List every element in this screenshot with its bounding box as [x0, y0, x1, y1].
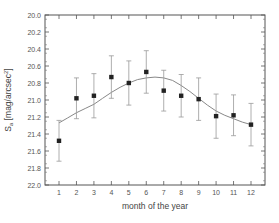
- x-tick-label: 6: [144, 189, 148, 196]
- y-tick-label: 20.4: [27, 46, 41, 53]
- chart: 20.020.220.420.620.821.021.221.421.621.8…: [0, 0, 279, 223]
- data-point: [214, 114, 218, 118]
- y-tick-label: 20.0: [27, 12, 41, 19]
- y-tick-label: 21.4: [27, 131, 41, 138]
- y-tick-label: 21.0: [27, 97, 41, 104]
- data-points: [57, 70, 253, 143]
- x-tick-label: 8: [179, 189, 183, 196]
- data-point: [162, 88, 166, 92]
- y-tick-label: 20.6: [27, 63, 41, 70]
- x-tick-label: 1: [57, 189, 61, 196]
- x-tick-label: 4: [109, 189, 113, 196]
- x-tick-label: 9: [197, 189, 201, 196]
- x-tick-label: 2: [75, 189, 79, 196]
- y-tick-label: 21.8: [27, 165, 41, 172]
- x-tick-label: 12: [247, 189, 255, 196]
- x-axis: 123456789101112: [57, 15, 255, 196]
- error-bars: [57, 51, 254, 162]
- data-point: [92, 94, 96, 98]
- x-tick-label: 7: [162, 189, 166, 196]
- x-axis-title: month of the year: [122, 201, 188, 211]
- y-axis-title: Sa [mag/arcsec2]: [3, 68, 14, 131]
- y-tick-label: 20.8: [27, 80, 41, 87]
- data-point: [249, 122, 253, 126]
- fit-line: [59, 77, 251, 125]
- data-point: [196, 97, 200, 101]
- data-point: [127, 81, 131, 85]
- data-point: [74, 96, 78, 100]
- data-point: [144, 70, 148, 74]
- y-tick-label: 20.2: [27, 29, 41, 36]
- data-point: [57, 139, 61, 143]
- x-tick-label: 10: [212, 189, 220, 196]
- data-point: [231, 113, 235, 117]
- data-point: [109, 75, 113, 79]
- y-tick-label: 21.2: [27, 114, 41, 121]
- fit-curve: [59, 77, 251, 125]
- y-tick-label: 22.0: [27, 182, 41, 189]
- y-tick-label: 21.6: [27, 148, 41, 155]
- y-axis: 20.020.220.420.620.821.021.221.421.621.8…: [27, 12, 265, 189]
- x-tick-label: 11: [230, 189, 237, 196]
- x-tick-label: 3: [92, 189, 96, 196]
- x-tick-label: 5: [127, 189, 131, 196]
- data-point: [179, 94, 183, 98]
